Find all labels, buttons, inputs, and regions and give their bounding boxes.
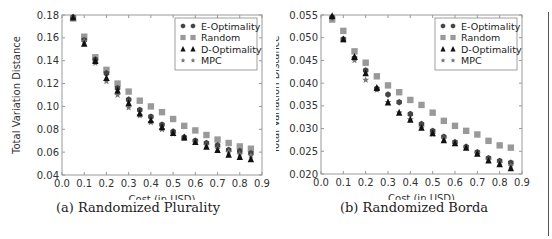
page-divider (548, 12, 549, 236)
chart-panel-borda: 0.00.10.20.30.40.50.60.70.80.90.0200.025… (276, 0, 552, 239)
y-tick-label: 0.10 (37, 101, 59, 112)
chart-borda: 0.00.10.20.30.40.50.60.70.80.90.0200.025… (276, 0, 552, 200)
data-point (452, 123, 458, 129)
y-tick-label: 0.050 (289, 32, 318, 43)
legend-label: E-Optimality (461, 21, 521, 32)
data-point (441, 118, 447, 124)
data-point (407, 97, 413, 103)
data-point (429, 109, 435, 115)
data-point (181, 123, 187, 129)
y-tick-label: 0.04 (37, 170, 59, 181)
data-point (396, 99, 402, 105)
x-tick-label: 0.2 (358, 177, 374, 188)
x-tick-label: 0.8 (492, 177, 508, 188)
data-point (248, 155, 254, 162)
y-tick-label: 0.18 (37, 10, 59, 21)
data-point (396, 89, 402, 95)
y-tick-label: 0.040 (289, 78, 318, 89)
y-tick-label: 0.16 (37, 32, 59, 43)
caption-borda: (b) Randomized Borda (276, 200, 552, 215)
square-marker-icon (450, 35, 455, 40)
legend: E-OptimalityRandomD-OptimalityMPC (435, 18, 522, 70)
data-point (463, 128, 469, 134)
legend-label: MPC (201, 55, 222, 66)
data-point (170, 116, 176, 122)
x-tick-label: 0.9 (514, 177, 530, 188)
x-tick-label: 0.4 (402, 177, 418, 188)
legend-label: Random (461, 32, 500, 43)
chart-panel-plurality: 0.00.10.20.30.40.50.60.70.80.90.040.060.… (0, 0, 276, 239)
x-tick-label: 0.8 (232, 178, 248, 189)
square-marker-icon (180, 35, 185, 40)
data-point (362, 60, 368, 66)
x-axis-label: Cost (in USD) (388, 193, 455, 200)
y-tick-label: 0.14 (37, 55, 59, 66)
legend-label: D-Optimality (201, 44, 262, 55)
data-point (362, 76, 369, 83)
x-tick-label: 0.4 (143, 178, 159, 189)
x-tick-label: 0.9 (254, 178, 270, 189)
data-point (485, 138, 491, 144)
legend-label: E-Optimality (201, 21, 261, 32)
y-axis-label: Total Variation Distance (276, 36, 281, 155)
x-tick-label: 0.3 (380, 177, 396, 188)
legend-label: Random (201, 32, 240, 43)
y-tick-label: 0.08 (37, 124, 59, 135)
x-tick-label: 0.5 (425, 177, 441, 188)
y-tick-label: 0.035 (289, 100, 318, 111)
square-marker-icon (190, 35, 195, 40)
data-point (418, 102, 424, 108)
data-point (385, 82, 391, 88)
data-point (125, 88, 131, 94)
y-tick-label: 0.06 (37, 147, 59, 158)
y-tick-label: 0.12 (37, 78, 59, 89)
legend-label: D-Optimality (461, 44, 522, 55)
data-point (474, 131, 480, 137)
x-tick-label: 0.1 (76, 178, 92, 189)
data-point (385, 91, 391, 97)
y-tick-label: 0.030 (289, 123, 318, 134)
data-point (374, 73, 380, 79)
x-tick-label: 0.7 (469, 177, 485, 188)
caption-plurality: (a) Randomized Plurality (0, 200, 276, 215)
legend-label: MPC (461, 55, 482, 66)
y-tick-label: 0.055 (289, 10, 318, 21)
x-tick-label: 0.1 (335, 177, 351, 188)
y-axis-label: Total Variation Distance (11, 36, 22, 155)
chart-plurality: 0.00.10.20.30.40.50.60.70.80.90.040.060.… (0, 0, 276, 200)
data-point (137, 98, 143, 104)
data-point (148, 103, 154, 109)
data-point (192, 127, 198, 133)
x-tick-label: 0.3 (121, 178, 137, 189)
data-point (496, 142, 502, 148)
square-marker-icon (440, 35, 445, 40)
y-tick-label: 0.020 (289, 169, 318, 180)
data-point (340, 28, 346, 34)
data-point (508, 144, 514, 150)
legend: E-OptimalityRandomD-OptimalityMPC (175, 18, 262, 70)
x-tick-label: 0.2 (98, 178, 114, 189)
x-tick-label: 0.7 (210, 178, 226, 189)
y-tick-label: 0.045 (289, 55, 318, 66)
data-point (225, 140, 231, 146)
x-tick-label: 0.6 (187, 178, 203, 189)
data-point (203, 132, 209, 138)
y-tick-label: 0.025 (289, 146, 318, 157)
x-tick-label: 0.6 (447, 177, 463, 188)
data-point (159, 109, 165, 115)
data-point (214, 136, 220, 142)
x-tick-label: 0.5 (165, 178, 181, 189)
